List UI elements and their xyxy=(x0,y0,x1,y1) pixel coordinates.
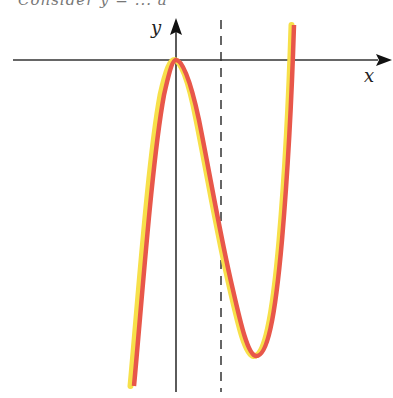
x-axis-arrow-icon xyxy=(376,54,392,66)
y-axis-label: y xyxy=(150,17,162,38)
cubic-curve xyxy=(134,25,294,386)
cubic-graph: y x xyxy=(0,0,393,398)
x-axis-label: x xyxy=(364,65,374,86)
curve-highlight xyxy=(131,25,292,386)
